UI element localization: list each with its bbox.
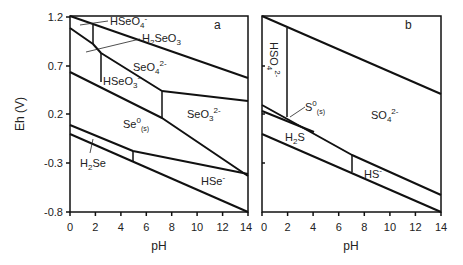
svg-text:0: 0 — [261, 221, 267, 233]
panel-a-tag: a — [214, 18, 221, 32]
ytick-0.2: 0.2 — [48, 108, 63, 120]
label-hs: HS- — [364, 166, 382, 180]
svg-text:12: 12 — [409, 221, 421, 233]
svg-text:6: 6 — [336, 221, 342, 233]
svg-text:14: 14 — [240, 221, 252, 233]
svg-text:2: 2 — [285, 221, 291, 233]
ytick--0.8: -0.8 — [44, 206, 63, 218]
svg-text:14: 14 — [435, 221, 447, 233]
lower-water-line-b — [262, 134, 441, 212]
lower-water-line — [70, 134, 248, 212]
label-hse: HSe- — [201, 173, 225, 187]
x-axis-title-b: pH — [343, 239, 358, 253]
label-se0: Se0(s) — [123, 116, 149, 133]
s0-h2s-boundary — [262, 111, 314, 132]
label-h2s: H2S — [285, 131, 305, 146]
panel-b-species-labels: HSO42- S0(s) SO42- H2S HS- — [265, 42, 399, 180]
x-axis-tick-labels-b: 0 2 4 6 8 10 12 14 — [261, 221, 447, 233]
svg-text:10: 10 — [384, 221, 396, 233]
ytick-0.7: 0.7 — [48, 60, 63, 72]
x-axis-title-a: pH — [151, 239, 166, 253]
x-axis-tick-labels-a: 0 2 4 6 8 10 12 14 — [67, 221, 252, 233]
svg-text:4: 4 — [118, 221, 124, 233]
eh-ph-diagram: 1.2 0.7 0.2 -0.3 -0.8 0 2 4 6 8 10 12 14 — [0, 0, 463, 265]
panel-a: 1.2 0.7 0.2 -0.3 -0.8 0 2 4 6 8 10 12 14 — [44, 11, 252, 233]
y-axis-title: Eh (V) — [13, 97, 27, 131]
svg-text:6: 6 — [143, 221, 149, 233]
ytick--0.3: -0.3 — [44, 157, 63, 169]
label-h2seo3: H2SeO3 — [142, 32, 181, 47]
panel-b: 0 2 4 6 8 10 12 14 HSO42- S0(s) SO42- H2… — [261, 16, 447, 233]
label-hso4: HSO42- — [265, 42, 282, 78]
y-axis-tick-labels: 1.2 0.7 0.2 -0.3 -0.8 — [44, 11, 63, 218]
panel-b-tag: b — [405, 18, 412, 32]
panel-a-species-labels: HSeO4- H2SeO3 SeO42- HSeO3- SeO32- Se0(s… — [80, 14, 225, 187]
label-hseo3: HSeO3- — [103, 73, 140, 90]
svg-text:4: 4 — [310, 221, 316, 233]
label-so4: SO42- — [371, 107, 399, 124]
seo4-seo3-boundary — [162, 91, 248, 101]
svg-text:2: 2 — [92, 221, 98, 233]
svg-text:8: 8 — [169, 221, 175, 233]
label-seo3: SeO32- — [187, 106, 221, 123]
svg-text:10: 10 — [191, 221, 203, 233]
upper-water-line-b — [262, 16, 441, 94]
sulfate-sulfide-boundary — [262, 105, 441, 195]
svg-text:0: 0 — [67, 221, 73, 233]
label-h2se: H2Se — [80, 157, 106, 172]
ytick-1.2: 1.2 — [48, 11, 63, 23]
panel-b-boundaries — [262, 16, 441, 212]
svg-text:8: 8 — [361, 221, 367, 233]
svg-text:12: 12 — [216, 221, 228, 233]
label-s0: S0(s) — [305, 99, 325, 116]
